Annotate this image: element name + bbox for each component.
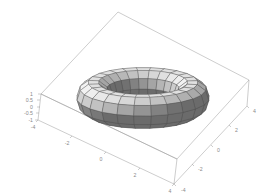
torus-mesh-face xyxy=(88,80,98,84)
y-tick-label-0: 0 xyxy=(217,147,220,153)
torus-mesh-face xyxy=(138,70,150,78)
torus-mesh-face xyxy=(151,115,168,125)
y-axis-tick-labels: -4 -2 0 2 4 xyxy=(181,108,256,193)
torus-mesh-face xyxy=(187,81,197,85)
torus-surface-mesh xyxy=(77,68,209,129)
z-axis-tick-labels: 1 0.5 0 -0.5 -1 xyxy=(24,91,33,123)
x-tick-m4 xyxy=(36,120,38,122)
x-tick-label-4: 4 xyxy=(169,188,172,194)
torus-mesh-face xyxy=(134,116,151,125)
y-tick-2 xyxy=(229,125,231,127)
x-tick-label-2: 2 xyxy=(134,172,137,178)
x-tick-2 xyxy=(138,168,140,170)
y-tick-4 xyxy=(247,106,249,108)
y-tick-label-m4: -4 xyxy=(181,187,186,193)
torus-mesh-face xyxy=(102,102,118,115)
y-tick-label-m2: -2 xyxy=(198,166,203,172)
torus-mesh-face xyxy=(148,79,158,90)
box-vertical-edge-front xyxy=(174,159,177,184)
torus-surface-plot: 1 0.5 0 -0.5 -1 -4 -2 0 2 4 -4 -2 0 2 4 xyxy=(0,0,269,196)
torus-mesh-face xyxy=(117,115,134,125)
y-tick-label-2: 2 xyxy=(235,127,238,133)
torus-mesh-face xyxy=(117,104,134,116)
x-axis-tick-labels: -4 -2 0 2 4 xyxy=(31,124,172,194)
torus-mesh-face xyxy=(134,105,151,115)
torus-mesh-face xyxy=(135,95,149,98)
x-tick-label-0: 0 xyxy=(100,156,103,162)
torus-mesh-face xyxy=(150,96,167,105)
torus-mesh-face xyxy=(151,104,168,116)
x-tick-label-m2: -2 xyxy=(65,140,70,146)
z-tick-label-m05: -0.5 xyxy=(24,110,33,116)
z-tick-label-m1: -1 xyxy=(28,117,33,123)
torus-mesh-face xyxy=(134,125,151,129)
y-tick-m4 xyxy=(174,184,176,186)
torus-mesh-face xyxy=(129,79,139,90)
torus-mesh-face xyxy=(134,97,151,105)
torus-mesh-face xyxy=(167,102,183,115)
torus-mesh-face xyxy=(118,96,135,105)
z-tick-label-05: 0.5 xyxy=(26,97,33,103)
y-tick-label-4: 4 xyxy=(253,108,256,114)
torus-mesh-face xyxy=(139,79,148,89)
y-tick-m2 xyxy=(192,164,194,166)
plot-figure: 1 0.5 0 -0.5 -1 -4 -2 0 2 4 -4 -2 0 2 4 xyxy=(0,0,269,196)
box-vertical-edge-right xyxy=(247,80,249,106)
y-tick-0 xyxy=(211,145,213,147)
torus-mesh-face xyxy=(136,68,150,71)
x-tick-m2 xyxy=(70,136,72,138)
x-tick-label-m4: -4 xyxy=(31,124,36,130)
x-tick-0 xyxy=(104,152,106,154)
x-tick-4 xyxy=(172,184,174,186)
